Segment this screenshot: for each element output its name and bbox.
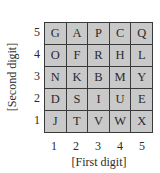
- col-label-5: 5: [137, 139, 147, 154]
- row-label-2: 2: [32, 91, 42, 106]
- grid-cell: X: [131, 111, 152, 132]
- grid-cell: W: [110, 111, 131, 132]
- grid-cell: N: [45, 67, 66, 88]
- grid-cell: O: [45, 45, 66, 66]
- x-axis-title: [First digit]: [44, 155, 154, 170]
- grid-cell: B: [88, 67, 109, 88]
- grid-cell: A: [67, 23, 88, 44]
- y-axis-title: [Second digit]: [5, 43, 20, 111]
- grid-cell: D: [45, 89, 66, 110]
- grid-cell: T: [67, 111, 88, 132]
- grid-cell: R: [88, 45, 109, 66]
- grid-cell: F: [67, 45, 88, 66]
- row-label-5: 5: [32, 25, 42, 40]
- grid-cell: E: [131, 89, 152, 110]
- grid-cell: U: [110, 89, 131, 110]
- col-label-3: 3: [93, 139, 103, 154]
- grid-cell: G: [45, 23, 66, 44]
- row-label-4: 4: [32, 47, 42, 62]
- grid-cell: Y: [131, 67, 152, 88]
- grid-cell: L: [131, 45, 152, 66]
- grid-cell: I: [88, 89, 109, 110]
- grid-cell: K: [67, 67, 88, 88]
- grid-cell: Q: [131, 23, 152, 44]
- grid-cell: P: [88, 23, 109, 44]
- grid-cell: H: [110, 45, 131, 66]
- col-label-2: 2: [71, 139, 81, 154]
- grid-cell: S: [67, 89, 88, 110]
- grid-cell: V: [88, 111, 109, 132]
- grid-cell: J: [45, 111, 66, 132]
- polybius-grid: G A P C Q O F R H L N K B M Y D S I U E …: [44, 22, 153, 133]
- row-label-1: 1: [32, 113, 42, 128]
- grid-cell: C: [110, 23, 131, 44]
- row-label-3: 3: [32, 69, 42, 84]
- col-label-1: 1: [49, 139, 59, 154]
- col-label-4: 4: [115, 139, 125, 154]
- grid-cell: M: [110, 67, 131, 88]
